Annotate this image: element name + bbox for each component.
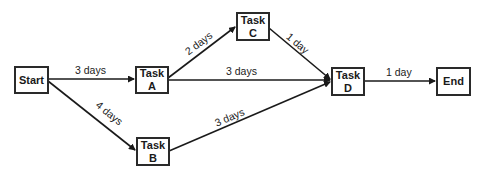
node-start-label: Start [19, 74, 44, 87]
node-task-c: Task C [236, 12, 270, 41]
edge-label-a-d: 3 days [226, 65, 257, 77]
edge-label-d-end: 1 day [386, 66, 412, 78]
edge-label-start-a: 3 days [75, 64, 106, 76]
node-task-b-line2: B [149, 152, 157, 165]
node-task-a: Task A [135, 66, 169, 94]
node-end-label: End [443, 75, 464, 88]
node-task-d: Task D [331, 67, 365, 96]
node-task-c-line2: C [249, 27, 257, 40]
node-start: Start [14, 66, 49, 94]
node-task-c-line1: Task [241, 14, 265, 27]
node-task-a-line1: Task [140, 67, 164, 80]
edge-b-d [169, 82, 330, 151]
node-task-b-line1: Task [141, 139, 165, 152]
node-task-a-line2: A [148, 80, 156, 93]
node-task-b: Task B [136, 137, 170, 166]
node-task-d-line2: D [344, 82, 352, 95]
node-end: End [436, 67, 471, 96]
node-task-d-line1: Task [336, 69, 360, 82]
